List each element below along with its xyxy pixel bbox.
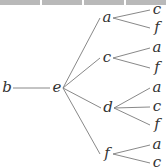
tree-edge: [114, 88, 150, 108]
node-label-n_d: d: [103, 98, 113, 116]
node-label-n_a: a: [103, 8, 112, 26]
tree-edge: [114, 107, 150, 108]
node-label-l_f_a: a: [153, 135, 162, 153]
node-label-n_e: e: [53, 78, 62, 96]
edges: [13, 10, 150, 163]
tree-edge: [113, 48, 150, 58]
node-label-n_b: b: [2, 78, 12, 96]
tree-diagram: beacdfcfafacfac: [0, 0, 166, 167]
tree-edge: [63, 58, 100, 88]
node-label-l_c_f: f: [153, 58, 162, 76]
node-label-l_d_a: a: [153, 78, 162, 96]
node-label-l_d_c: c: [153, 97, 162, 115]
tree-edge: [113, 18, 150, 28]
tree-edge: [113, 154, 150, 163]
tree-canvas: beacdfcfafacfac: [0, 0, 166, 167]
node-label-l_d_f: f: [153, 115, 162, 133]
node-label-l_a_f: f: [153, 18, 162, 36]
node-label-l_f_c: c: [153, 153, 162, 167]
tree-edge: [113, 10, 150, 18]
node-label-n_c: c: [103, 48, 112, 66]
node-label-l_a_c: c: [153, 0, 162, 18]
tree-edge: [113, 58, 150, 68]
node-label-l_c_a: a: [153, 38, 162, 56]
node-label-n_f: f: [103, 144, 112, 162]
tree-edge: [113, 145, 150, 154]
tree-edge: [63, 18, 100, 88]
tree-edge: [114, 108, 150, 125]
